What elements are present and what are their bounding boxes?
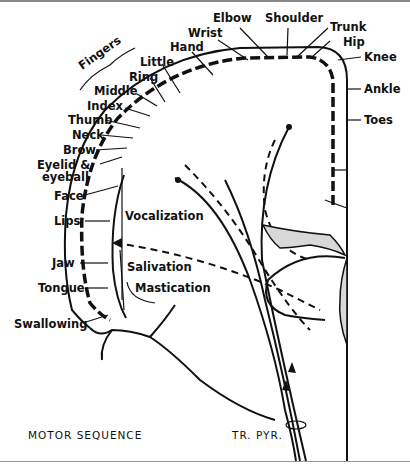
sulcus-2 (325, 200, 347, 208)
label-face: Face (54, 189, 84, 203)
label-tongue: Tongue (38, 281, 85, 295)
label-middle: Middle (94, 84, 138, 98)
origin-dot-1 (286, 124, 292, 130)
arrow-2 (288, 362, 296, 373)
temporal-outline (90, 328, 275, 420)
label-toes: Toes (364, 113, 393, 127)
label-tract-pyramidal: TR. PYR. (231, 429, 283, 441)
label-little: Little (140, 55, 174, 69)
lateral-shade (340, 258, 347, 345)
swallow-branch (150, 305, 175, 337)
label-vocalization: Vocalization (125, 209, 204, 223)
label-elbow: Elbow (213, 11, 252, 25)
motor-cortex-diagram: Fingers Elbow Shoulder Trunk Hip Knee An… (0, 0, 410, 467)
assoc-arrow-2 (115, 243, 320, 310)
label-neck: Neck (72, 128, 104, 142)
label-ankle: Ankle (364, 82, 401, 96)
label-salivation: Salivation (127, 260, 192, 274)
origin-dot-2 (175, 177, 181, 183)
label-knee: Knee (364, 50, 397, 64)
label-lips: Lips (54, 214, 81, 228)
fingers-group-label: Fingers (76, 33, 124, 72)
tract-line-3 (262, 127, 306, 461)
label-hip: Hip (343, 35, 365, 49)
label-eyeball: eyeball (42, 170, 89, 184)
label-index: Index (87, 99, 123, 113)
label-brow: Brow (63, 143, 96, 157)
label-jaw: Jaw (51, 256, 75, 270)
label-trunk: Trunk (330, 20, 367, 34)
label-hand: Hand (170, 40, 204, 54)
label-thumb: Thumb (68, 113, 112, 127)
label-ring: Ring (129, 70, 158, 84)
diagram-title: MOTOR SEQUENCE (28, 429, 142, 441)
label-wrist: Wrist (188, 26, 223, 40)
label-shoulder: Shoulder (265, 11, 324, 25)
insula-shade (263, 225, 345, 255)
label-swallowing: Swallowing (14, 317, 87, 331)
label-mastication: Mastication (135, 281, 211, 295)
